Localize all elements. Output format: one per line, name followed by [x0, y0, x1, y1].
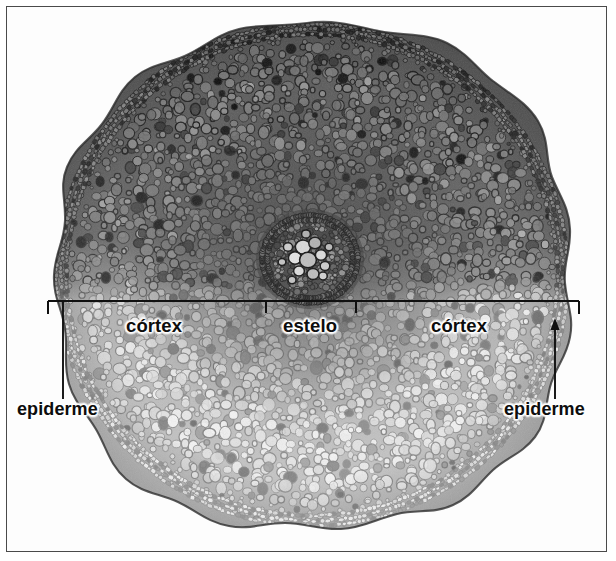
micrograph-stage: a denhase om asteralhmde umra aosntecame… — [7, 7, 606, 551]
label-cortex-right: córtex — [431, 317, 487, 336]
label-estelo: estelo — [283, 317, 337, 336]
epiderme-right-arrowhead — [550, 318, 559, 330]
label-epiderme-left: epiderme — [17, 400, 98, 418]
label-cortex-left: córtex — [126, 317, 182, 336]
label-epiderme-right: epiderme — [504, 400, 585, 418]
epiderme-right-leader — [550, 318, 559, 399]
root-cross-section-figure: a denhase om asteralhmde umra aosntecame… — [0, 0, 616, 561]
annotation-leader-lines — [7, 7, 607, 552]
figure-frame: a denhase om asteralhmde umra aosntecame… — [6, 6, 607, 552]
